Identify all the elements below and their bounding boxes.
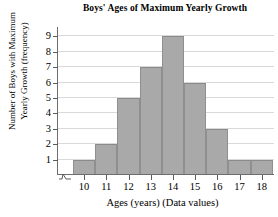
x-axis-line: [57, 174, 274, 175]
x-tick-label: 15: [186, 181, 204, 192]
y-tick-label: 1: [38, 155, 51, 165]
y-axis-line: [57, 27, 58, 175]
x-tick-label: 12: [120, 181, 138, 192]
x-tick-label: 13: [142, 181, 160, 192]
y-axis-title-line1: Number of Boys with Maximum: [7, 0, 19, 151]
x-tick-label: 10: [75, 181, 93, 192]
bars-group: [57, 27, 274, 175]
y-tick-mark: [53, 52, 58, 53]
y-tick-label: 8: [38, 47, 51, 57]
x-tick-mark: [173, 175, 174, 180]
x-tick-label: 14: [164, 181, 182, 192]
bar: [162, 36, 184, 175]
y-tick-mark: [53, 113, 58, 114]
y-tick-label: 5: [38, 93, 51, 103]
y-tick-label: 2: [38, 139, 51, 149]
y-tick-label: 6: [38, 78, 51, 88]
y-tick-mark: [53, 36, 58, 37]
plot-area: [57, 27, 274, 175]
bar: [184, 83, 206, 176]
axis-break-icon: [58, 170, 72, 180]
y-axis-title-line2: Yearly Growth (frequency): [19, 0, 31, 151]
x-axis-title: Ages (years) (Data values): [47, 196, 278, 209]
y-tick-label: 4: [38, 108, 51, 118]
x-tick-mark: [106, 175, 107, 180]
x-tick-mark: [217, 175, 218, 180]
x-tick-label: 16: [208, 181, 226, 192]
histogram-figure: Boys' Ages of Maximum Yearly Growth Numb…: [0, 0, 278, 217]
y-tick-mark: [53, 160, 58, 161]
y-tick-label: 7: [38, 62, 51, 72]
bar: [95, 144, 117, 175]
y-tick-label: 3: [38, 124, 51, 134]
bar: [228, 160, 250, 175]
bar: [140, 67, 162, 175]
y-tick-mark: [53, 144, 58, 145]
bar: [73, 160, 95, 175]
y-tick-mark: [53, 98, 58, 99]
x-tick-mark: [195, 175, 196, 180]
x-tick-mark: [262, 175, 263, 180]
y-tick-mark: [53, 83, 58, 84]
bar: [117, 98, 139, 175]
chart-title: Boys' Ages of Maximum Yearly Growth: [56, 2, 274, 14]
y-tick-mark: [53, 129, 58, 130]
bar: [251, 160, 273, 175]
x-tick-label: 18: [253, 181, 271, 192]
bar: [206, 129, 228, 175]
y-tick-label: 9: [38, 31, 51, 41]
x-tick-mark: [240, 175, 241, 180]
x-tick-mark: [129, 175, 130, 180]
x-tick-label: 17: [231, 181, 249, 192]
y-axis-title: Number of Boys with Maximum Yearly Growt…: [7, 0, 35, 151]
x-tick-mark: [151, 175, 152, 180]
x-tick-mark: [84, 175, 85, 180]
x-tick-label: 11: [97, 181, 115, 192]
y-tick-mark: [53, 67, 58, 68]
